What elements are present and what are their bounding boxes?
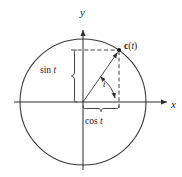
sin-function-name: sin [40, 65, 51, 75]
unit-circle-figure: y x c(t) sin t cos t t [0, 0, 182, 177]
cos-t-label: cos t [85, 117, 103, 127]
point-label-c-of-t: c(t) [124, 42, 137, 52]
y-axis-label: y [80, 7, 85, 18]
point-label-close-paren: ) [134, 41, 137, 51]
figure-canvas [0, 0, 182, 177]
radius-vector-line [83, 53, 118, 103]
cos-brace [83, 106, 119, 112]
x-axis-label: x [171, 99, 176, 110]
sin-variable: t [53, 65, 56, 75]
angle-t-label: t [103, 80, 106, 89]
cos-variable: t [100, 116, 103, 126]
cos-function-name: cos [85, 116, 98, 126]
sin-brace [72, 50, 77, 102]
point-marker-c-of-t [117, 48, 121, 52]
sin-t-label: sin t [40, 66, 56, 76]
